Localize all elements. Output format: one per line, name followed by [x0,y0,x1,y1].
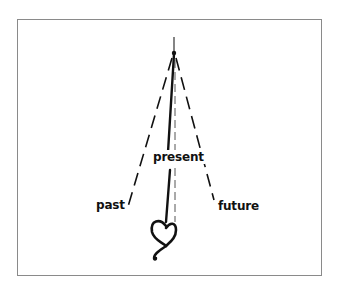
present-arrow-line [166,54,174,222]
heart-tail [154,246,166,260]
past-dashed-line [127,58,172,210]
future-label: future [218,199,259,213]
heart-icon [152,221,176,246]
time-cone-diagram [0,0,342,291]
past-label: past [96,198,125,212]
future-dashed-line [176,58,214,200]
present-label: present [152,150,205,164]
